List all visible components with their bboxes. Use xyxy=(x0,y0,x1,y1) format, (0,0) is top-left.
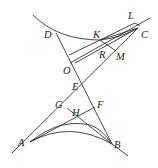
label-R: R xyxy=(98,49,106,60)
line-OC xyxy=(75,28,138,63)
label-K: K xyxy=(92,29,101,40)
label-C: C xyxy=(141,29,149,40)
geometry-diagram: A B C D E F G H K L M O R xyxy=(0,0,158,168)
label-D: D xyxy=(43,29,52,40)
label-L: L xyxy=(127,10,134,21)
label-G: G xyxy=(55,99,63,110)
label-B: B xyxy=(114,139,121,150)
line-KL xyxy=(100,23,135,40)
label-H: H xyxy=(71,107,81,118)
label-E: E xyxy=(71,81,79,92)
label-F: F xyxy=(96,99,104,110)
label-A: A xyxy=(17,137,25,148)
label-M: M xyxy=(115,51,126,62)
label-O: O xyxy=(63,65,71,76)
line-OK xyxy=(69,40,100,55)
